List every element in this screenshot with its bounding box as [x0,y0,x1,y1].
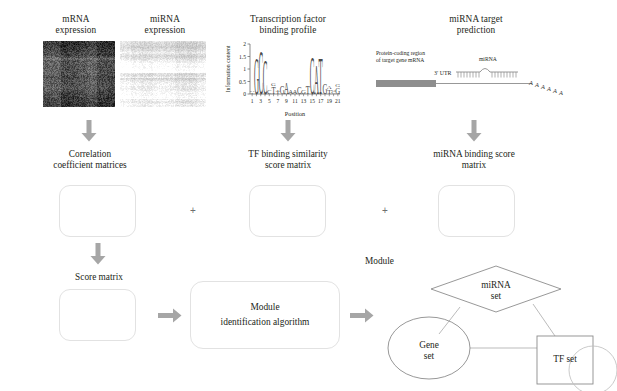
module-identification-algorithm-box[interactable]: Module identification algorithm [190,281,340,349]
svg-text:G: G [271,83,276,87]
duplex-left-ticks [458,72,479,78]
matrix-box-mirna-binding[interactable] [438,185,515,237]
svg-text:T: T [319,48,323,105]
mirna-set-line1: miRNA [470,280,522,291]
tf-set-label: TF set [539,354,591,365]
coding-region-bar [376,80,436,87]
edge-mirna-to-tf [533,304,555,336]
row2-label-correlation: Correlation coefficient matrices [30,149,150,172]
algorithm-line1: Module [221,300,310,315]
operator-plus-2: + [382,205,388,216]
correlation-label-line2: coefficient matrices [30,160,150,171]
svg-text:0: 0 [243,91,246,97]
arrow-down-score-matrix [90,243,106,269]
matrix-box-correlation[interactable] [59,185,136,237]
operator-plus-1: + [190,205,196,216]
target-title-line1: miRNA target [408,14,544,25]
svg-text:5: 5 [268,98,271,104]
mrna-expression-heatmap [43,41,115,107]
svg-text:C: C [263,49,268,105]
edge-mirna-to-gene [439,307,460,334]
coding-region-label: Protein-coding region of target gene mRN… [376,50,470,64]
svg-text:1.5: 1.5 [239,54,246,60]
coding-region-label-line1: Protein-coding region [376,50,470,57]
mirna-expression-heatmap [120,41,206,107]
arrow-right-to-module [350,308,374,327]
gene-set-line2: set [403,351,455,362]
matrix-box-score[interactable] [59,289,136,341]
svg-text:Position: Position [285,110,305,117]
row2-label-tf-binding: TF binding similarity score matrix [222,149,354,172]
panel-title-mrna: mRNA expression [28,14,124,37]
matrix-box-tf-binding[interactable] [249,185,326,237]
svg-text:13: 13 [301,98,307,104]
tf-title-line1: Transcription factor [228,14,348,25]
tf-binding-label-line1: TF binding similarity [222,149,354,160]
mirna-set-line2: set [470,291,522,302]
tf-binding-label-line2: score matrix [222,160,354,171]
mirna-bulge-loop [480,69,490,73]
correlation-label-line1: Correlation [30,149,150,160]
mirna-binding-label-line2: matrix [408,160,540,171]
mirna-target-prediction-schematic: Protein-coding region of target gene mRN… [366,52,594,112]
panel-title-target: miRNA target prediction [408,14,544,37]
svg-text:G: G [335,84,340,88]
mirna-binding-label-line1: miRNA binding score [408,149,540,160]
arrow-down-mrna [81,120,97,146]
algorithm-text: Module identification algorithm [221,300,310,330]
svg-text:9: 9 [285,98,288,104]
mirna-title-line2: expression [118,25,212,36]
svg-text:Information content: Information content [225,45,231,92]
gene-set-label: Gene set [403,340,455,362]
module-graph: miRNA set Gene set TF set [375,258,617,391]
arrow-right-to-algorithm [158,308,182,327]
svg-text:7: 7 [276,98,279,104]
mirna-strand-label: miRNA [479,56,497,63]
panel-title-tf: Transcription factor binding profile [228,14,348,37]
mrna-title-line2: expression [28,25,124,36]
duplex-right-ticks [492,72,516,78]
utr-label: 3′ UTR [434,70,452,76]
svg-text:19: 19 [327,98,333,104]
arrow-down-tf [280,120,296,146]
coding-region-label-line2: of target gene mRNA [376,57,470,64]
svg-text:1: 1 [243,66,246,72]
svg-text:2: 2 [243,41,246,47]
polya-tail-label: A A A A A A [529,79,591,103]
row2-label-mirna-binding: miRNA binding score matrix [408,149,540,172]
svg-text:0.5: 0.5 [239,79,246,85]
svg-text:11: 11 [292,98,298,104]
tf-binding-profile-chart: 00.511.5213579111315171921TGGCCCTGTTGAAA… [222,38,348,124]
mirna-title-line1: miRNA [118,14,212,25]
tf-binding-profile-svg: 00.511.5213579111315171921TGGCCCTGTTGAAA… [222,38,348,124]
mirna-set-label: miRNA set [470,280,522,302]
panel-title-mirna: miRNA expression [118,14,212,37]
tf-title-line2: binding profile [228,25,348,36]
algorithm-line2: identification algorithm [221,315,310,330]
arrow-down-target [466,120,482,146]
score-matrix-label: Score matrix [48,272,150,283]
svg-text:21: 21 [335,98,341,104]
gene-set-line1: Gene [403,340,455,351]
target-title-line2: prediction [408,25,544,36]
mrna-title-line1: mRNA [28,14,124,25]
